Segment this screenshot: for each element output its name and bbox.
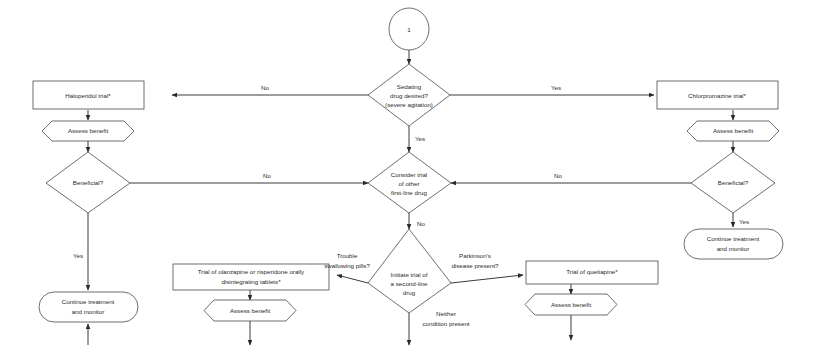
second-line-line2: a second-line xyxy=(391,280,428,287)
consider-trial-line2: of other xyxy=(399,180,420,187)
beneficial-left-label: Beneficial? xyxy=(73,179,104,186)
edge-label-sedating-yes-down: Yes xyxy=(415,135,425,142)
edge-label-beneficial-left-no: No xyxy=(263,172,271,179)
edge-label-neither-line2: condition present xyxy=(422,320,469,327)
quetiapine-label: Trial of quetiapine* xyxy=(566,268,618,275)
sedating-decision-line1: Sedating xyxy=(397,83,422,90)
edge-label-trouble-line2: swallowing pills? xyxy=(324,262,370,269)
continue-left-line1: Continue treatment xyxy=(62,298,115,305)
edge-label-beneficial-right-no: No xyxy=(554,172,562,179)
edge-label-parkinsons-line2: disease present? xyxy=(451,262,499,269)
sedating-decision-line2: drug desired? xyxy=(390,92,428,99)
beneficial-right-label: Beneficial? xyxy=(718,179,749,186)
haloperidol-label: Haloperidol trial* xyxy=(65,92,111,99)
edge-label-beneficial-right-yes: Yes xyxy=(739,218,749,225)
continue-right-line1: Continue treatment xyxy=(707,235,760,242)
edge-label-parkinsons-line1: Parkinson's xyxy=(459,252,491,259)
consider-trial-line1: Consider trial xyxy=(391,171,427,178)
second-line-line1: Initiate trial of xyxy=(391,271,428,278)
edge-trouble-swallowing xyxy=(337,275,368,283)
edge-label-trouble-line1: Trouble xyxy=(337,252,358,259)
olanzapine-line2: disintegrating tablets* xyxy=(221,278,281,285)
continue-right-line2: and monitor xyxy=(717,245,750,252)
edge-label-sedating-yes-right: Yes xyxy=(551,84,561,91)
edge-label-consider-trial-no: No xyxy=(417,220,425,227)
assess-benefit-olanzapine-label: Assess benefit xyxy=(230,307,271,314)
sedating-decision-line3: (severe agitation) xyxy=(385,101,433,108)
edge-label-beneficial-left-yes: Yes xyxy=(73,252,83,259)
second-line-line3: drug xyxy=(403,289,416,296)
flowchart-canvas: 1 Sedating drug desired? (severe agitati… xyxy=(0,0,820,349)
assess-benefit-right-label: Assess benefit xyxy=(713,127,754,134)
olanzapine-line1: Trial of olanzapine or risperidone orall… xyxy=(198,268,305,275)
assess-benefit-quetiapine-label: Assess benefit xyxy=(551,301,592,308)
edge-parkinsons-disease xyxy=(451,275,523,283)
edge-label-neither-line1: Neither xyxy=(436,310,456,317)
continue-left-line2: and monitor xyxy=(72,308,105,315)
edge-label-sedating-no: No xyxy=(261,84,269,91)
chlorpromazine-label: Chlorpromazine trial* xyxy=(688,92,746,99)
start-circle-label: 1 xyxy=(407,26,411,33)
assess-benefit-left-label: Assess benefit xyxy=(68,127,109,134)
consider-trial-line3: first-line drug xyxy=(391,189,427,196)
